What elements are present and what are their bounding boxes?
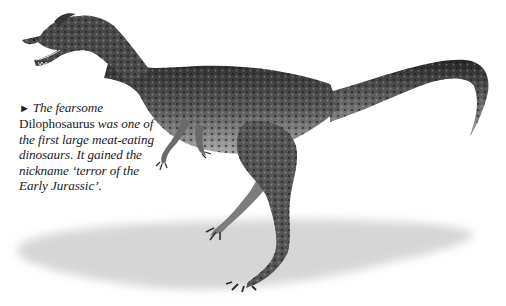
species-name: Dilophosaurus [19,116,95,131]
caption-intro: The fearsome [33,100,103,115]
figure-caption: ►The fearsome Dilophosaurus was one of t… [19,100,194,193]
triangle-pointer-icon: ► [19,102,30,114]
caption-line-4: dinosaurs. It gained the [19,147,142,162]
book-page: ►The fearsome Dilophosaurus was one of t… [0,0,506,306]
caption-line-6: Early Jurassic’. [19,178,102,193]
caption-line-2-rest: was one of [98,116,153,131]
caption-line-5: nickname ‘terror of the [19,163,139,178]
caption-line-3: the first large meat-eating [19,132,154,147]
